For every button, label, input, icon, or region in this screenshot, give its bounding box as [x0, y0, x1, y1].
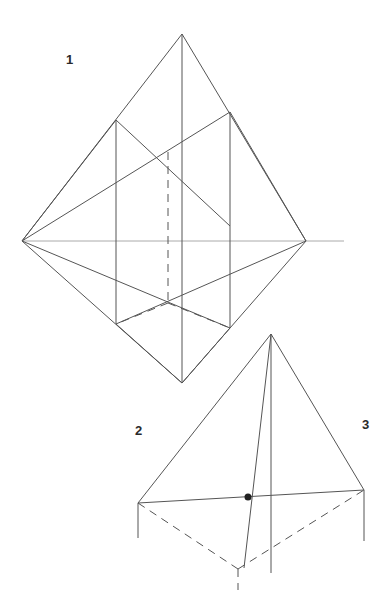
edge-line	[116, 324, 182, 383]
edge-line	[138, 334, 271, 503]
edge-line	[116, 120, 230, 226]
edge-line	[244, 334, 271, 568]
edge-line	[271, 334, 364, 490]
edge-line	[22, 120, 116, 241]
edge-line	[22, 112, 230, 241]
figure-label-1: 1	[66, 53, 73, 66]
hidden-edge-line	[238, 490, 364, 569]
figure-label-2: 2	[135, 424, 142, 437]
hidden-edge-line	[116, 303, 168, 324]
intersection-dot	[245, 494, 252, 501]
edge-line	[230, 112, 306, 241]
edge-line	[116, 241, 306, 324]
hidden-edge-line	[168, 303, 230, 328]
edge-line	[182, 328, 230, 383]
hidden-edge-line	[138, 503, 238, 569]
figure-label-3: 3	[362, 418, 369, 431]
geometry-diagram	[0, 0, 389, 609]
